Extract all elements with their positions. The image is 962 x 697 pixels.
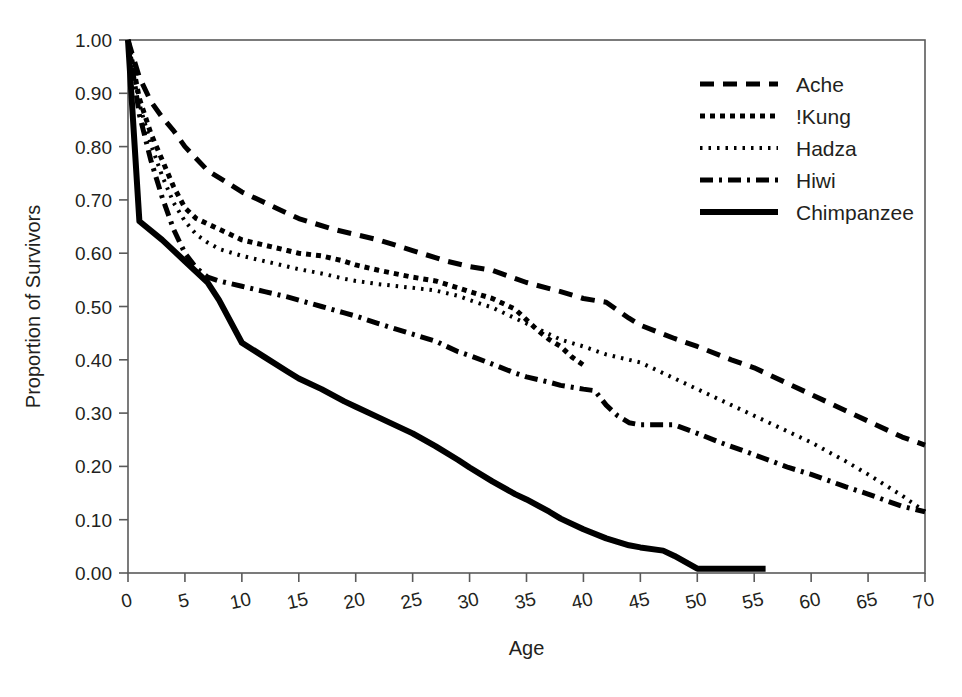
y-tick-label: 0.00 [75, 563, 112, 584]
x-axis-ticks: 0510152025303540455055606570 [119, 573, 936, 613]
series-line-chimpanzee [128, 40, 766, 569]
y-tick-label: 0.10 [75, 510, 112, 531]
survivorship-chart-figure: 0510152025303540455055606570 0.000.100.2… [0, 0, 962, 697]
y-tick-label: 0.20 [75, 456, 112, 477]
y-axis-ticks: 0.000.100.200.300.400.500.600.700.800.90… [75, 30, 128, 584]
x-tick-label: 70 [911, 588, 936, 613]
chart-canvas: 0510152025303540455055606570 0.000.100.2… [0, 0, 962, 697]
x-tick-label: 60 [797, 588, 822, 613]
y-tick-label: 0.30 [75, 403, 112, 424]
y-tick-label: 0.90 [75, 83, 112, 104]
x-tick-label: 5 [176, 589, 191, 612]
x-tick-label: 55 [740, 588, 765, 613]
x-tick-label: 50 [683, 588, 708, 613]
x-tick-label: 25 [399, 588, 424, 613]
y-tick-label: 0.40 [75, 350, 112, 371]
legend-label-hadza: Hadza [796, 137, 857, 160]
x-tick-label: 0 [119, 589, 134, 612]
y-tick-label: 0.70 [75, 190, 112, 211]
legend-label-chimpanzee: Chimpanzee [796, 201, 914, 224]
x-tick-label: 40 [570, 588, 595, 613]
y-tick-label: 0.60 [75, 243, 112, 264]
x-tick-label: 10 [228, 588, 253, 613]
x-axis-title: Age [509, 637, 545, 659]
series-line-kung [128, 40, 583, 365]
y-tick-label: 0.80 [75, 137, 112, 158]
x-tick-label: 35 [513, 588, 538, 613]
x-tick-label: 15 [285, 588, 310, 613]
x-tick-label: 45 [626, 588, 651, 613]
legend-label-hiwi: Hiwi [796, 169, 836, 192]
y-tick-label: 1.00 [75, 30, 112, 51]
legend-label-ache: Ache [796, 73, 844, 96]
x-tick-label: 65 [854, 588, 879, 613]
y-tick-label: 0.50 [75, 297, 112, 318]
legend-label-kung: !Kung [796, 105, 851, 128]
y-axis-title: Proportion of Survivors [22, 205, 44, 408]
legend: Ache!KungHadzaHiwiChimpanzee [700, 73, 914, 224]
x-tick-label: 30 [456, 588, 481, 613]
x-tick-label: 20 [342, 588, 367, 613]
